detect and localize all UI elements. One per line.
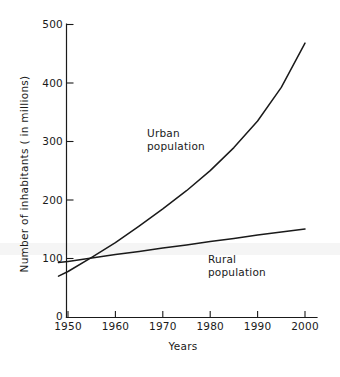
rural-population-label-line1: Rural [208,253,236,265]
x-tick-label-2000: 2000 [291,320,319,332]
x-axis-title: Years [167,340,197,352]
x-tick-label-1970: 1970 [149,320,177,332]
x-tick-label-1980: 1980 [196,320,224,332]
y-tick-label-200: 200 [42,194,63,206]
urban-population-label-line1: Urban [147,127,180,139]
x-tick-label-1960: 1960 [102,320,130,332]
y-axis-title: Number of inhabitants ( in millions) [18,75,30,272]
rural-population-label-line2: population [208,266,266,278]
chart-container: 500 400 300 200 100 0 1950 1960 1970 198… [0,0,340,377]
x-tick-label-1990: 1990 [244,320,272,332]
y-tick-label-300: 300 [42,135,63,147]
x-tick-label-1950: 1950 [54,320,82,332]
urban-population-label-line2: population [147,140,205,152]
population-line-chart: 500 400 300 200 100 0 1950 1960 1970 198… [0,0,340,377]
y-tick-label-500: 500 [42,18,63,30]
y-tick-label-400: 400 [42,77,63,89]
